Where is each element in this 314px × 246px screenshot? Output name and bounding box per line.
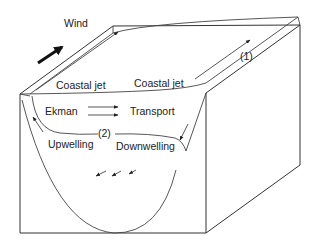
coastal-jet-left-label: Coastal jet bbox=[56, 79, 106, 91]
corner-tick bbox=[298, 17, 300, 25]
marker-2-label: (2) bbox=[98, 127, 111, 139]
marker-1-label: (1) bbox=[240, 50, 253, 62]
coastal-jet-right-label: Coastal jet bbox=[134, 77, 184, 89]
top-right-edge bbox=[206, 25, 300, 93]
upwelling-label: Upwelling bbox=[48, 138, 94, 150]
downwelling-arrow-icon bbox=[180, 124, 188, 140]
ekman-label: Ekman bbox=[45, 105, 78, 117]
upwelling-arrow-icon bbox=[33, 117, 43, 132]
downwelling-wall bbox=[186, 93, 206, 151]
wind-arrow-icon bbox=[38, 47, 62, 63]
onshore-arrow-2-icon bbox=[112, 171, 121, 176]
right-bottom-edge bbox=[206, 165, 300, 233]
coastal-upwelling-diagram: Wind Coastal jet Coastal jet (1) Ekman T… bbox=[0, 0, 314, 246]
wind-label: Wind bbox=[64, 17, 88, 29]
onshore-arrow-3-icon bbox=[129, 170, 136, 174]
top-back-edge bbox=[113, 25, 300, 26]
onshore-arrow-1-icon bbox=[96, 171, 106, 176]
arrows bbox=[33, 32, 250, 176]
transport-label: Transport bbox=[130, 105, 175, 117]
downwelling-label: Downwelling bbox=[116, 140, 175, 152]
labels: Wind Coastal jet Coastal jet (1) Ekman T… bbox=[45, 17, 253, 152]
deep-parabola bbox=[22, 100, 176, 233]
block-outline bbox=[20, 17, 300, 233]
